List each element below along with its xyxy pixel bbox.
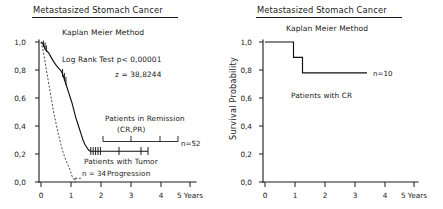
- x-tick-label: 0: [39, 191, 44, 200]
- x-tick-label: 3: [129, 191, 134, 200]
- remission-label-line2: (CR,PR): [117, 125, 145, 134]
- left-y-tick-labels: 1,0 0,8 0,6 0,4 0,2 0,0: [14, 38, 26, 187]
- y-tick-label: 1,0: [14, 38, 26, 47]
- x-axis-end-label: 5 Years: [401, 191, 427, 200]
- x-tick-label: 2: [99, 191, 104, 200]
- progression-label-line1: Patients with Tumor: [84, 157, 158, 166]
- x-tick-label: 0: [263, 191, 268, 200]
- right-chart-subtitle: Kaplan Meier Method: [286, 24, 368, 33]
- right-y-axis-label: Survival Probability: [229, 57, 238, 140]
- x-tick-label: 3: [353, 191, 358, 200]
- remission-n-label: n=52: [181, 139, 200, 148]
- x-tick-label: 1: [293, 191, 298, 200]
- y-tick-label: 0,0: [14, 178, 26, 187]
- left-x-ticks: [41, 182, 190, 187]
- remission-label-line1: Patients in Remission: [105, 114, 185, 123]
- y-tick-label: 0,0: [240, 178, 252, 187]
- right-y-ticks: [259, 42, 263, 182]
- left-x-tick-labels: 0 1 2 3 4 5 Years: [39, 191, 204, 200]
- remission-leader-bracket: [103, 136, 178, 142]
- right-y-tick-labels: 1,0 0,8 0,6 0,4 0,2 0,0: [240, 38, 252, 187]
- y-tick-label: 0,2: [240, 150, 252, 159]
- y-tick-label: 0,4: [14, 122, 26, 131]
- left-chart-svg: Metastasized Stomach Cancer Kaplan Meier…: [0, 0, 222, 209]
- x-tick-label: 1: [69, 191, 74, 200]
- y-tick-label: 1,0: [240, 38, 252, 47]
- x-tick-label: 2: [323, 191, 328, 200]
- chart-panel-left: Metastasized Stomach Cancer Kaplan Meier…: [0, 0, 222, 209]
- log-rank-test-text: Log Rank Test p< 0,00001: [62, 55, 162, 64]
- cr-n-label: n=10: [373, 69, 393, 78]
- x-axis-end-label: 5 Years: [177, 191, 203, 200]
- progression-label-line2: Progression: [107, 169, 150, 178]
- y-tick-label: 0,6: [240, 94, 252, 103]
- kaplan-meier-figure: Metastasized Stomach Cancer Kaplan Meier…: [0, 0, 443, 209]
- left-chart-subtitle: Kaplan Meier Method: [62, 28, 144, 37]
- x-tick-label: 4: [159, 191, 164, 200]
- y-tick-label: 0,6: [14, 94, 26, 103]
- left-chart-title: Metastasized Stomach Cancer: [33, 5, 163, 15]
- right-chart-title: Metastasized Stomach Cancer: [257, 5, 387, 15]
- y-tick-label: 0,2: [14, 150, 26, 159]
- x-tick-label: 4: [383, 191, 388, 200]
- progression-n-label: n = 34: [82, 169, 106, 178]
- curve-patients-with-cr: [265, 42, 367, 73]
- chart-panel-right: Metastasized Stomach Cancer Kaplan Meier…: [222, 0, 443, 209]
- right-x-ticks: [265, 182, 414, 187]
- left-y-ticks: [35, 42, 39, 182]
- right-x-tick-labels: 0 1 2 3 4 5 Years: [263, 191, 428, 200]
- right-chart-svg: Metastasized Stomach Cancer Kaplan Meier…: [222, 0, 443, 209]
- y-tick-label: 0,8: [240, 66, 252, 75]
- cr-label: Patients with CR: [291, 91, 352, 100]
- z-value-text: z = 38,8244: [115, 70, 162, 79]
- y-tick-label: 0,8: [14, 66, 26, 75]
- y-tick-label: 0,4: [240, 122, 252, 131]
